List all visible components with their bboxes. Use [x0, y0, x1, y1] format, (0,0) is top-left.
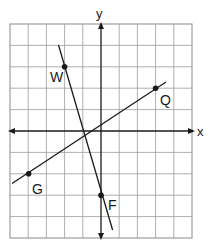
label-w: W: [50, 69, 64, 85]
label-g: G: [32, 181, 43, 197]
point-q: [153, 85, 159, 91]
y-axis-label: y: [96, 6, 103, 21]
line-gq: [12, 82, 166, 184]
label-f: F: [108, 197, 117, 213]
label-q: Q: [160, 92, 171, 108]
line-wf: [59, 45, 113, 230]
x-axis-label: x: [197, 124, 204, 139]
point-g: [26, 171, 32, 177]
coordinate-plane: x y W Q G F: [0, 0, 211, 244]
point-f: [98, 192, 104, 198]
